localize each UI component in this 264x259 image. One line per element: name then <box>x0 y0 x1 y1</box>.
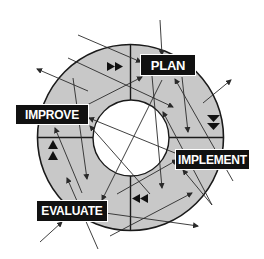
stage-label-evaluate: EVALUATE <box>36 200 108 222</box>
stage-label-plan: PLAN <box>140 54 196 76</box>
arrow <box>40 222 62 242</box>
stage-label-implement: IMPLEMENT <box>175 149 250 170</box>
stage-label-improve: IMPROVE <box>15 104 89 125</box>
